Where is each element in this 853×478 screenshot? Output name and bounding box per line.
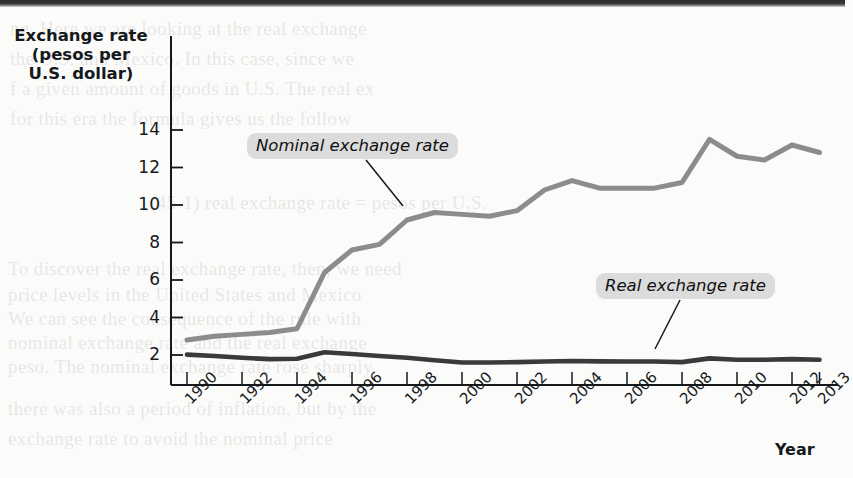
data-series-lines bbox=[187, 139, 820, 362]
series-label-real-exchange-rate: Real exchange rate bbox=[596, 273, 775, 299]
series-label-nominal-exchange-rate: Nominal exchange rate bbox=[247, 133, 458, 159]
annotation-leader-line-1 bbox=[655, 300, 680, 349]
series-line-nominal-exchange-rate bbox=[187, 139, 820, 340]
series-line-real-exchange-rate bbox=[187, 352, 820, 362]
annotation-leader-line-0 bbox=[366, 160, 403, 206]
axis-tick-marks bbox=[171, 130, 820, 385]
